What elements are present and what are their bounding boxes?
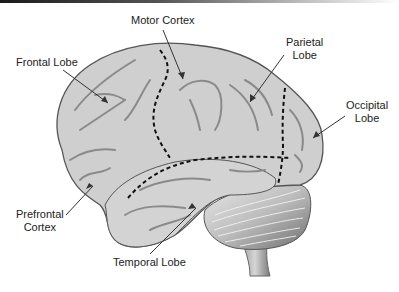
label-parietal-lobe: Parietal Lobe bbox=[286, 36, 323, 62]
label-frontal-lobe: Frontal Lobe bbox=[16, 56, 78, 69]
label-temporal-lobe: Temporal Lobe bbox=[113, 256, 186, 269]
label-prefrontal-cortex: Prefrontal Cortex bbox=[16, 208, 64, 234]
label-motor-cortex: Motor Cortex bbox=[131, 14, 195, 27]
brain-illustration bbox=[0, 0, 399, 292]
label-occipital-lobe: Occipital Lobe bbox=[346, 99, 388, 125]
